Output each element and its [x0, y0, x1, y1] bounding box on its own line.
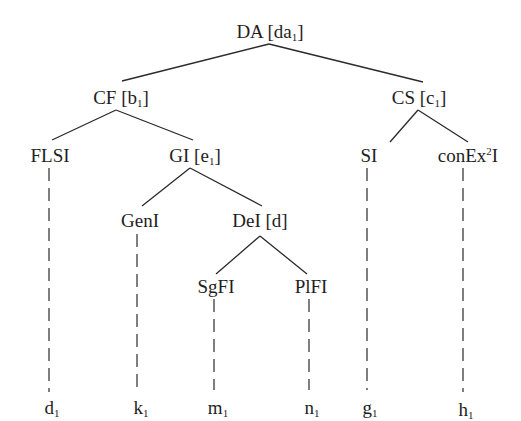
node-label: conEx2I	[438, 145, 498, 166]
node-da: DA [da1]	[236, 22, 303, 43]
leaf-m1: m1	[208, 398, 228, 419]
node-si: SI	[361, 146, 378, 165]
node-gi: GI [e1]	[169, 146, 220, 167]
node-tag: [da1]	[268, 21, 304, 42]
node-label: SI	[361, 145, 378, 166]
node-label: PlFI	[295, 276, 328, 297]
node-geni: GenI	[121, 211, 159, 230]
leaf-n1: n1	[305, 398, 320, 419]
edge-gi-dei	[190, 168, 262, 206]
node-cf: CF [b1]	[93, 88, 149, 109]
edge-cf-flsi	[52, 110, 116, 140]
node-tag: [e1]	[194, 145, 221, 166]
edge-dei-plfi	[260, 236, 307, 274]
node-sgfi: SgFI	[198, 277, 235, 296]
node-label: FLSI	[30, 145, 69, 166]
node-plfi: PlFI	[295, 277, 328, 296]
node-tag: [d]	[266, 210, 288, 231]
edge-gi-geni	[142, 168, 190, 206]
leaf-k1: k1	[134, 398, 149, 419]
node-conex2i: conEx2I	[438, 146, 498, 165]
edge-da-cf	[122, 44, 269, 81]
leaf-d1: d1	[45, 398, 60, 419]
node-label: CF	[93, 87, 116, 108]
node-tag: [c1]	[420, 87, 447, 108]
edge-cs-si	[390, 110, 418, 142]
edge-da-cs	[269, 44, 423, 82]
node-label: GI	[169, 145, 189, 166]
node-label: DA	[236, 21, 262, 42]
node-cs: CS [c1]	[392, 88, 447, 109]
leaf-g1: g1	[363, 398, 378, 419]
edge-cf-gi	[116, 110, 193, 140]
node-label: GenI	[121, 210, 159, 231]
node-label: SgFI	[198, 276, 235, 297]
node-tag: [b1]	[121, 87, 149, 108]
node-label: DeI	[232, 210, 260, 231]
tree-diagram: DA [da1] CF [b1] CS [c1] FLSI GI [e1] SI…	[0, 0, 521, 421]
node-label: CS	[392, 87, 415, 108]
edge-dei-sgfi	[216, 236, 260, 274]
node-dei: DeI [d]	[232, 211, 287, 230]
leaf-h1: h1	[459, 400, 474, 421]
node-flsi: FLSI	[30, 146, 69, 165]
edge-cs-conex2i	[418, 110, 468, 142]
